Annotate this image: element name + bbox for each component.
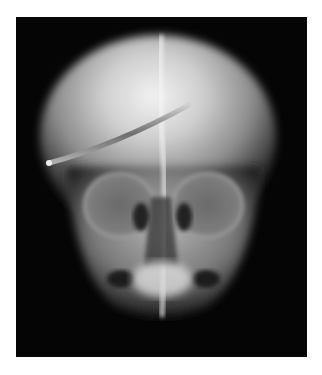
xray-image (16, 17, 307, 357)
skull-xray (16, 17, 307, 357)
